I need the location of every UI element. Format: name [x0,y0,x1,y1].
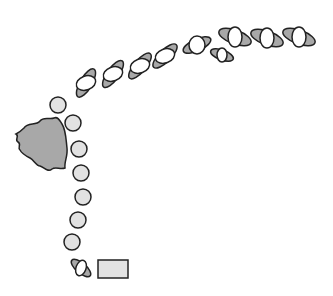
ellipse-pair [73,66,99,100]
light-gray-rectangle [98,260,128,278]
circle-node [71,141,87,157]
circle-node [64,234,80,250]
ellipse-pair [217,25,254,50]
ellipse-pair [249,26,286,51]
circle-node [75,189,91,205]
ellipse-pair [181,33,213,57]
ellipse-pair [125,50,155,82]
white-ellipse [228,27,242,47]
irregular-gray-mass [16,118,67,171]
white-ellipse [189,36,205,54]
ellipse-pair [281,25,318,50]
white-ellipse [260,28,274,48]
ellipse-pair [99,57,127,90]
circle-node [70,212,86,228]
circle-node [65,115,81,131]
ellipse-pair [209,46,235,64]
circle-node [73,165,89,181]
circle-node [50,97,66,113]
white-ellipse [217,48,227,62]
diagram-canvas [0,0,333,296]
ellipse-pair [69,256,94,279]
diagram-svg [0,0,333,296]
ellipse-pair-arc [69,25,318,280]
white-ellipse [292,27,306,47]
ellipse-pair [149,40,180,71]
